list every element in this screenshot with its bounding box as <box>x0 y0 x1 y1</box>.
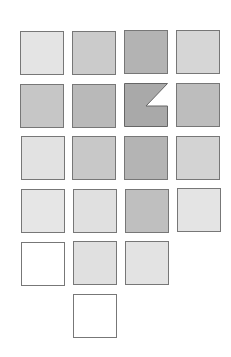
tile-r3-c1 <box>21 136 65 180</box>
tile-r6-c2 <box>73 294 117 338</box>
tile-r4-c4 <box>177 188 221 232</box>
tile-r1-c2 <box>72 31 116 75</box>
tile-r5-c2 <box>73 241 117 285</box>
tile-r4-c2 <box>73 189 117 233</box>
notched-tile <box>123 82 169 128</box>
tile-r2-c2 <box>72 84 116 128</box>
tile-r5-c3 <box>125 241 169 285</box>
tile-r1-c3 <box>124 30 168 74</box>
tile-r2-c1 <box>20 84 64 128</box>
tile-r4-c1 <box>21 189 65 233</box>
tile-r1-c1 <box>20 31 64 75</box>
tile-r4-c3 <box>125 189 169 233</box>
tile-r1-c4 <box>176 30 220 74</box>
tile-r5-c1 <box>21 242 65 286</box>
tile-r3-c4 <box>176 136 220 180</box>
tile-r3-c2 <box>72 136 116 180</box>
tile-r3-c3 <box>124 136 168 180</box>
tile-r2-c4 <box>176 83 220 127</box>
